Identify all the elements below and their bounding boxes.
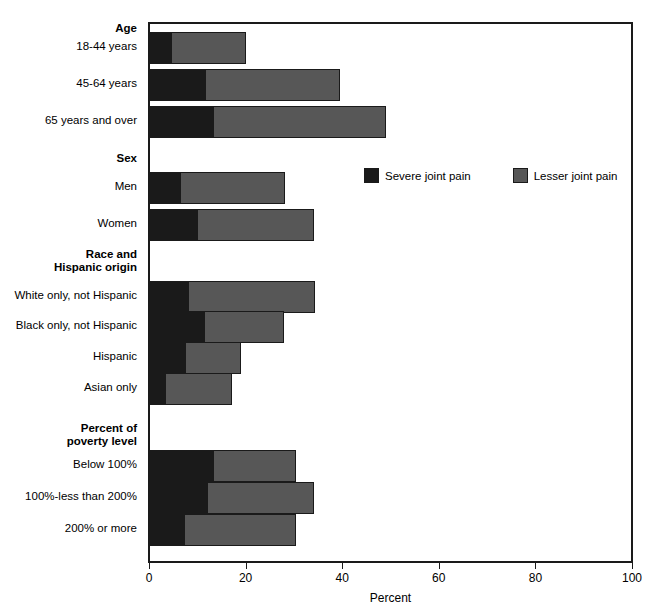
x-axis: Percent 020406080100 <box>148 563 633 615</box>
bar-segment-lesser[interactable] <box>207 482 314 514</box>
bar-18-44-years[interactable] <box>150 32 246 64</box>
group-header-race-and-hispanic-origin: Race andHispanic origin <box>0 248 143 273</box>
bar-segment-severe[interactable] <box>150 281 188 313</box>
bar-segment-lesser[interactable] <box>213 106 385 138</box>
legend-label-lesser: Lesser joint pain <box>534 170 618 182</box>
bar-segment-lesser[interactable] <box>180 172 284 204</box>
legend: Severe joint pain Lesser joint pain <box>364 168 617 183</box>
category-label-asian-only: Asian only <box>0 381 143 393</box>
category-label-black-only-not-hispanic: Black only, not Hispanic <box>0 319 143 331</box>
x-axis-tick-label-20: 20 <box>239 571 252 585</box>
bar-segment-lesser[interactable] <box>197 209 313 241</box>
category-label-65-years-and-over: 65 years and over <box>0 114 143 126</box>
legend-item-severe: Severe joint pain <box>364 168 471 183</box>
bar-segment-lesser[interactable] <box>213 450 296 482</box>
x-axis-tick-label-0: 0 <box>146 571 153 585</box>
category-label-45-64-years: 45-64 years <box>0 77 143 89</box>
x-axis-tick-label-60: 60 <box>432 571 445 585</box>
x-axis-tick-label-80: 80 <box>529 571 542 585</box>
bar-segment-lesser[interactable] <box>188 281 315 313</box>
category-label-men: Men <box>0 180 143 192</box>
category-label-column: Age18-44 years45-64 years65 years and ov… <box>0 22 143 563</box>
category-label-women: Women <box>0 217 143 229</box>
category-label-below-100: Below 100% <box>0 458 143 470</box>
category-label-200-or-more: 200% or more <box>0 522 143 534</box>
bar-black-only-not-hispanic[interactable] <box>150 311 284 343</box>
legend-swatch-lesser-icon <box>513 168 528 183</box>
x-axis-tick-100 <box>632 563 633 569</box>
joint-pain-stacked-bar-chart: Age18-44 years45-64 years65 years and ov… <box>0 0 651 615</box>
group-header-age: Age <box>0 22 143 34</box>
x-axis-title: Percent <box>148 591 633 605</box>
x-axis-tick-80 <box>535 563 536 569</box>
bar-men[interactable] <box>150 172 285 204</box>
bar-segment-severe[interactable] <box>150 172 180 204</box>
x-axis-tick-label-100: 100 <box>622 571 642 585</box>
bar-below-100[interactable] <box>150 450 296 482</box>
x-axis-tick-40 <box>342 563 343 569</box>
bar-white-only-not-hispanic[interactable] <box>150 281 315 313</box>
x-axis-tick-60 <box>439 563 440 569</box>
bar-65-years-and-over[interactable] <box>150 106 386 138</box>
category-label-100-less-than-200: 100%-less than 200% <box>0 490 143 502</box>
bar-asian-only[interactable] <box>150 373 232 405</box>
group-header-percent-of-poverty-level: Percent ofpoverty level <box>0 422 143 447</box>
bar-segment-severe[interactable] <box>150 32 171 64</box>
category-label-white-only-not-hispanic: White only, not Hispanic <box>0 289 143 301</box>
x-axis-tick-0 <box>149 563 150 569</box>
bar-segment-severe[interactable] <box>150 106 213 138</box>
bar-segment-severe[interactable] <box>150 450 213 482</box>
bars-layer <box>150 24 631 561</box>
bar-100-less-than-200[interactable] <box>150 482 314 514</box>
bar-segment-severe[interactable] <box>150 209 197 241</box>
bar-segment-severe[interactable] <box>150 373 165 405</box>
x-axis-tick-20 <box>246 563 247 569</box>
bar-segment-lesser[interactable] <box>185 342 242 374</box>
bar-segment-severe[interactable] <box>150 482 207 514</box>
bar-segment-lesser[interactable] <box>204 311 284 343</box>
x-axis-tick-label-40: 40 <box>336 571 349 585</box>
bar-hispanic[interactable] <box>150 342 241 374</box>
legend-label-severe: Severe joint pain <box>385 170 471 182</box>
category-label-hispanic: Hispanic <box>0 350 143 362</box>
legend-item-lesser: Lesser joint pain <box>513 168 618 183</box>
bar-segment-lesser[interactable] <box>171 32 247 64</box>
legend-swatch-severe-icon <box>364 168 379 183</box>
bar-200-or-more[interactable] <box>150 514 296 546</box>
bar-45-64-years[interactable] <box>150 69 340 101</box>
bar-women[interactable] <box>150 209 314 241</box>
group-header-sex: Sex <box>0 152 143 164</box>
bar-segment-severe[interactable] <box>150 514 184 546</box>
bar-segment-lesser[interactable] <box>184 514 296 546</box>
bar-segment-lesser[interactable] <box>205 69 340 101</box>
bar-segment-severe[interactable] <box>150 311 204 343</box>
bar-segment-lesser[interactable] <box>165 373 231 405</box>
bar-segment-severe[interactable] <box>150 69 205 101</box>
bar-segment-severe[interactable] <box>150 342 185 374</box>
category-label-18-44-years: 18-44 years <box>0 40 143 52</box>
